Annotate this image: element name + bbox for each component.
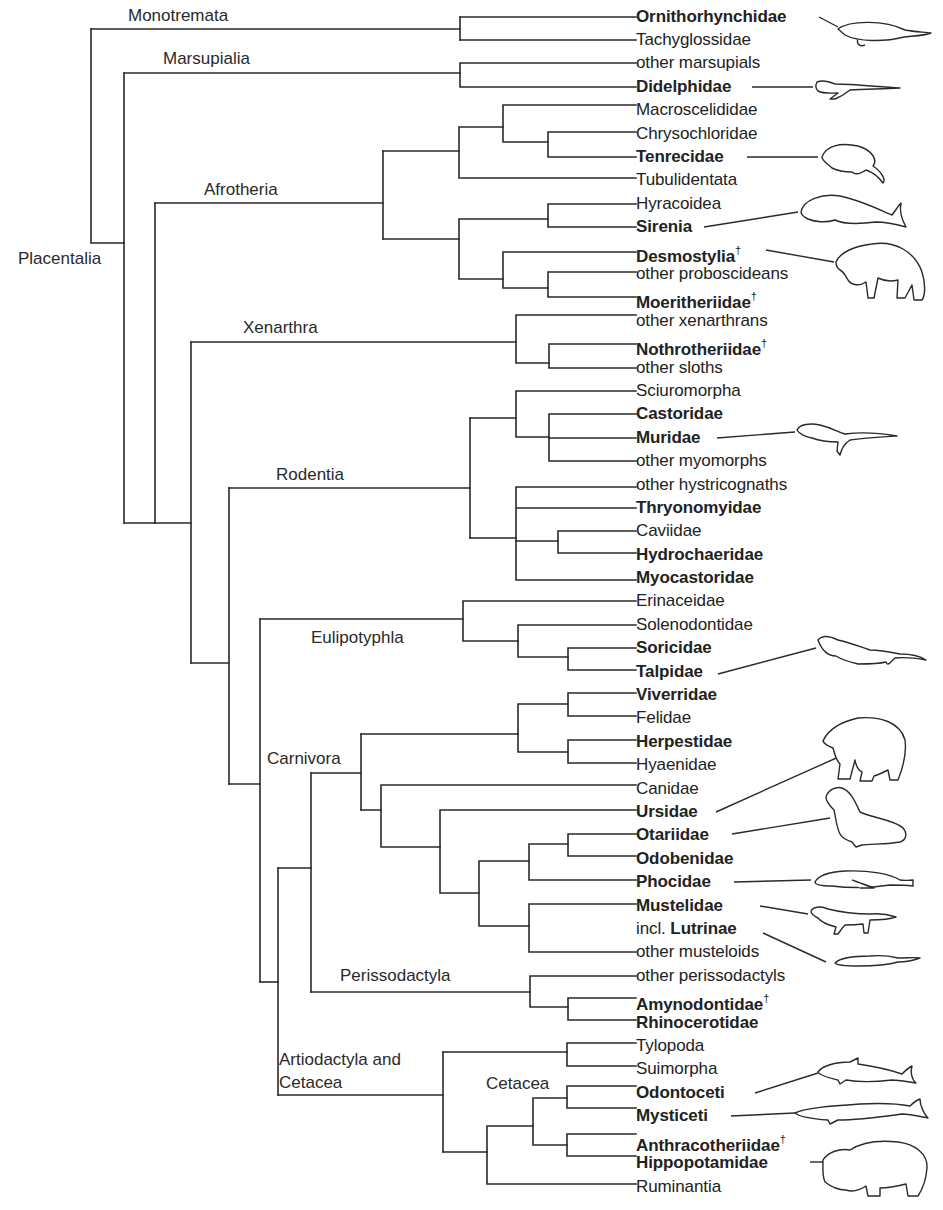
clade-label-cetacea: Cetacea [486, 1074, 549, 1094]
taxon-label: Odontoceti [636, 1083, 725, 1103]
taxon-label: Suimorpha [636, 1059, 717, 1079]
taxon-label: Tenrecidae [636, 147, 724, 167]
taxon-label: incl. Lutrinae [636, 919, 737, 939]
taxon-label: Muridae [636, 428, 700, 448]
taxon-label: Desmostylia† [636, 241, 741, 267]
clade-label-artiodactyla: Artiodactyla and [279, 1050, 401, 1070]
clade-label-monotremata: Monotremata [128, 6, 228, 26]
taxon-label: Canidae [636, 779, 699, 799]
taxon-label: Erinaceidae [636, 591, 725, 611]
taxon-label: Hydrochaeridae [636, 545, 763, 565]
taxon-label: Herpestidae [636, 732, 732, 752]
taxon-label: Mustelidae [636, 896, 723, 916]
taxon-label: Rhinocerotidae [636, 1013, 758, 1033]
taxon-label: Amynodontidae† [636, 989, 769, 1015]
taxon-label: Sciuromorpha [636, 381, 741, 401]
opossum-icon [816, 81, 900, 99]
clade-label-afrotheria: Afrotheria [204, 180, 278, 200]
taxon-label: other perissodactyls [636, 966, 785, 986]
taxon-label: Ursidae [636, 802, 698, 822]
clade-label-placentalia: Placentalia [18, 249, 101, 269]
extinct-dagger: † [780, 1133, 786, 1145]
taxon-label: other proboscideans [636, 264, 788, 284]
taxon-label: other sloths [636, 358, 723, 378]
desman-icon [818, 637, 926, 664]
taxon-label: Solenodontidae [636, 615, 753, 635]
taxon-label: Sirenia [636, 217, 692, 237]
taxon-label: Mysticeti [636, 1106, 708, 1126]
taxon-label: Tubulidentata [636, 170, 737, 190]
baleen-whale-icon [795, 1099, 928, 1124]
extinct-dagger: † [751, 290, 757, 302]
taxon-label: Talpidae [636, 662, 703, 682]
taxon-label: Viverridae [636, 685, 717, 705]
mink-icon [811, 907, 896, 934]
taxon-label: other xenarthrans [636, 311, 768, 331]
clade-label-xenarthra: Xenarthra [243, 318, 318, 338]
taxon-label: Ruminantia [636, 1177, 721, 1197]
taxon-label: Chrysochloridae [636, 124, 757, 144]
taxon-label: Hyracoidea [636, 194, 721, 214]
desmostylian-icon [836, 243, 925, 300]
taxon-label: Didelphidae [636, 77, 731, 97]
taxon-label: Ornithorhynchidae [636, 7, 786, 27]
taxon-label: Odobenidae [636, 849, 733, 869]
taxon-label: other myomorphs [636, 451, 767, 471]
hippopotamus-icon [823, 1141, 927, 1196]
tenrec-icon [822, 144, 884, 183]
extinct-dagger: † [763, 992, 769, 1004]
dolphin-icon [818, 1058, 916, 1084]
taxon-label: Hippopotamidae [636, 1153, 768, 1173]
taxon-label: Anthracotheriidae† [636, 1130, 786, 1156]
taxon-label: Soricidae [636, 638, 712, 658]
taxon-label: Moeritheriidae† [636, 287, 757, 313]
tree-branches [91, 17, 636, 1184]
clade-label-marsupialia: Marsupialia [163, 49, 250, 69]
taxon-label: Tylopoda [636, 1036, 704, 1056]
taxon-label: Caviidae [636, 521, 701, 541]
extinct-dagger: † [761, 337, 767, 349]
taxon-label: Phocidae [636, 872, 711, 892]
phylogenetic-tree [0, 0, 943, 1210]
water-rat-icon [797, 424, 897, 455]
clade-label-artiodactyla-cetacea: Cetacea [279, 1073, 342, 1093]
taxon-label: other hystricognaths [636, 475, 787, 495]
taxon-label: Tachyglossidae [636, 30, 751, 50]
taxon-label: other musteloids [636, 942, 759, 962]
taxon-label: Castoridae [636, 404, 723, 424]
taxon-label: other marsupials [636, 53, 760, 73]
taxon-label: Felidae [636, 708, 691, 728]
clade-label-rodentia: Rodentia [276, 465, 344, 485]
clade-label-perissodactyla: Perissodactyla [340, 966, 451, 986]
polar-bear-icon [823, 718, 905, 781]
seal-icon [815, 871, 913, 888]
clade-label-carnivora: Carnivora [267, 749, 341, 769]
otter-icon [835, 956, 920, 966]
taxon-label: Nothrotheriidae† [636, 334, 767, 360]
taxon-label: Macroscelididae [636, 100, 757, 120]
extinct-dagger: † [735, 244, 741, 256]
taxon-label: Thryonomyidae [636, 498, 761, 518]
platypus-icon [838, 22, 931, 45]
taxon-label: Hyaenidae [636, 755, 716, 775]
clade-label-eulipotyphla: Eulipotyphla [311, 628, 404, 648]
taxon-label: Myocastoridae [636, 568, 754, 588]
taxon-label: Otariidae [636, 825, 709, 845]
sea-lion-icon [826, 787, 906, 847]
dugong-icon [801, 195, 906, 227]
